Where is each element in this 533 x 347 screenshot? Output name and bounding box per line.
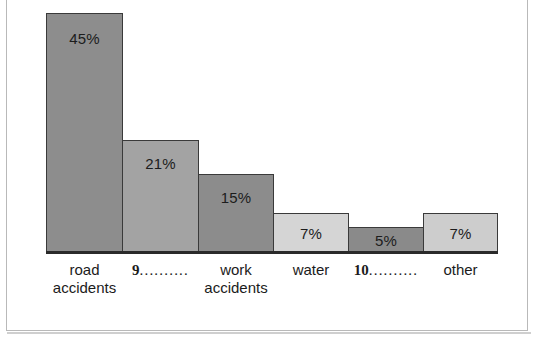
x-label-line2: accidents bbox=[46, 279, 123, 297]
x-label-line1: water bbox=[293, 261, 330, 278]
blank-dots: .......... bbox=[369, 262, 419, 278]
bar-value-label: 21% bbox=[123, 155, 198, 172]
x-label-line2: accidents bbox=[198, 279, 274, 297]
x-label-blank-9: 9.......... bbox=[122, 261, 199, 279]
bar-value-label: 5% bbox=[349, 232, 423, 249]
x-label-water: water bbox=[273, 261, 349, 279]
x-label-road-accidents: road accidents bbox=[46, 261, 123, 297]
blank-number: 10 bbox=[354, 262, 369, 278]
bar-blank-9[interactable]: 21% bbox=[122, 140, 199, 252]
page-root: 45% 21% 15% 7% 5% 7% bbox=[0, 0, 533, 347]
bar-chart: 45% 21% 15% 7% 5% 7% bbox=[0, 0, 533, 347]
bar-other[interactable]: 7% bbox=[423, 213, 498, 252]
bar-work-accidents[interactable]: 15% bbox=[198, 174, 274, 252]
bar-value-label: 15% bbox=[199, 189, 273, 206]
bar-blank-10[interactable]: 5% bbox=[348, 227, 424, 252]
bar-value-label: 7% bbox=[424, 225, 497, 242]
bar-road-accidents[interactable]: 45% bbox=[46, 13, 123, 252]
blank-dots: .......... bbox=[140, 262, 190, 278]
x-label-blank-10: 10.......... bbox=[348, 261, 424, 279]
x-label-line1: other bbox=[443, 261, 477, 278]
blank-number: 9 bbox=[132, 262, 140, 278]
x-label-work-accidents: work accidents bbox=[198, 261, 274, 297]
x-axis-baseline bbox=[46, 251, 498, 254]
bar-water[interactable]: 7% bbox=[273, 213, 349, 252]
x-label-line1: work bbox=[220, 261, 252, 278]
bar-value-label: 7% bbox=[274, 225, 348, 242]
x-label-line1: road bbox=[69, 261, 99, 278]
bar-value-label: 45% bbox=[47, 30, 122, 47]
x-label-other: other bbox=[423, 261, 498, 279]
